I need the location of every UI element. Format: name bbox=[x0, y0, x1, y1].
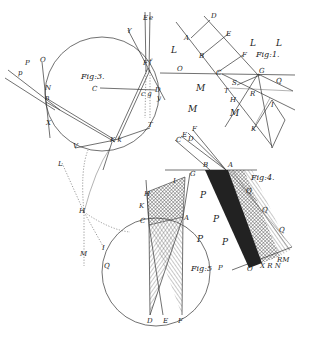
svg-text:X: X bbox=[45, 119, 52, 127]
fig3-title: Fig:3. bbox=[80, 72, 105, 81]
svg-text:c g: c g bbox=[141, 90, 152, 98]
svg-text:I: I bbox=[172, 177, 176, 185]
svg-text:C: C bbox=[92, 85, 98, 93]
svg-text:G: G bbox=[259, 67, 265, 75]
svg-text:B: B bbox=[202, 161, 208, 169]
svg-text:N: N bbox=[44, 84, 52, 92]
svg-text:O: O bbox=[177, 65, 183, 73]
svg-text:C: C bbox=[216, 69, 222, 77]
svg-text:C: C bbox=[140, 217, 146, 225]
svg-text:G: G bbox=[190, 170, 196, 178]
svg-text:O: O bbox=[40, 56, 46, 64]
optics-plate: Fig:3. Ee Y Ff C D c g y O P p N n X K k… bbox=[0, 0, 311, 340]
svg-text:M: M bbox=[195, 83, 206, 93]
figure-3: Fig:3. Ee Y Ff C D c g y O P p N n X K k… bbox=[5, 12, 165, 170]
svg-text:E: E bbox=[225, 30, 231, 38]
figure-2: L H I M bbox=[57, 148, 130, 266]
svg-text:Q: Q bbox=[104, 262, 110, 270]
svg-text:L: L bbox=[249, 38, 256, 48]
svg-text:P: P bbox=[199, 190, 207, 200]
svg-text:M: M bbox=[187, 104, 198, 114]
fig4-title: Fig:4. bbox=[250, 173, 275, 182]
svg-text:E: E bbox=[142, 14, 148, 22]
svg-text:P: P bbox=[217, 264, 223, 272]
svg-text:A: A bbox=[183, 34, 189, 42]
svg-text:S: S bbox=[232, 79, 237, 87]
fig5-title: Fig:5 bbox=[190, 264, 212, 273]
svg-text:P: P bbox=[212, 214, 220, 224]
svg-text:e: e bbox=[149, 14, 153, 22]
svg-text:O: O bbox=[247, 265, 253, 273]
svg-text:T: T bbox=[148, 121, 154, 129]
svg-text:R: R bbox=[249, 90, 256, 98]
svg-text:L: L bbox=[275, 38, 282, 48]
svg-text:F: F bbox=[241, 51, 248, 59]
svg-text:D: D bbox=[146, 317, 153, 325]
svg-text:I: I bbox=[270, 101, 274, 109]
svg-text:I: I bbox=[101, 244, 105, 252]
svg-text:n: n bbox=[45, 94, 50, 102]
svg-text:P: P bbox=[221, 237, 229, 247]
svg-text:Q: Q bbox=[246, 187, 252, 195]
svg-text:F: F bbox=[177, 317, 184, 325]
svg-text:A: A bbox=[183, 214, 189, 222]
svg-text:RM: RM bbox=[276, 256, 290, 264]
svg-text:Q: Q bbox=[276, 77, 282, 85]
svg-text:M: M bbox=[79, 250, 88, 258]
svg-text:K k: K k bbox=[109, 136, 122, 144]
svg-text:H: H bbox=[143, 190, 151, 198]
svg-text:P: P bbox=[24, 59, 30, 67]
svg-text:L: L bbox=[170, 45, 177, 55]
svg-text:D: D bbox=[154, 86, 161, 94]
svg-text:L: L bbox=[57, 160, 63, 168]
svg-text:H: H bbox=[78, 207, 86, 215]
svg-text:F: F bbox=[191, 125, 198, 133]
svg-text:f: f bbox=[148, 58, 153, 66]
svg-text:E: E bbox=[181, 131, 187, 139]
svg-text:K: K bbox=[138, 202, 145, 210]
svg-text:E: E bbox=[162, 317, 168, 325]
svg-text:y: y bbox=[156, 94, 162, 102]
svg-text:Q: Q bbox=[262, 206, 268, 214]
svg-text:M: M bbox=[229, 108, 240, 118]
svg-text:P: P bbox=[196, 234, 204, 244]
svg-text:Y: Y bbox=[127, 27, 133, 35]
svg-text:B: B bbox=[198, 52, 204, 60]
svg-text:K: K bbox=[250, 125, 257, 133]
svg-text:H: H bbox=[229, 96, 237, 104]
svg-text:p: p bbox=[18, 69, 23, 77]
fig1-title: Fig:1. bbox=[255, 50, 280, 59]
svg-text:D: D bbox=[187, 135, 194, 143]
svg-text:Q: Q bbox=[279, 226, 285, 234]
svg-text:A: A bbox=[227, 161, 233, 169]
svg-text:D: D bbox=[210, 12, 217, 20]
figure-1: A D B E F C G O Q S T R H I K L L L M M … bbox=[160, 12, 295, 148]
